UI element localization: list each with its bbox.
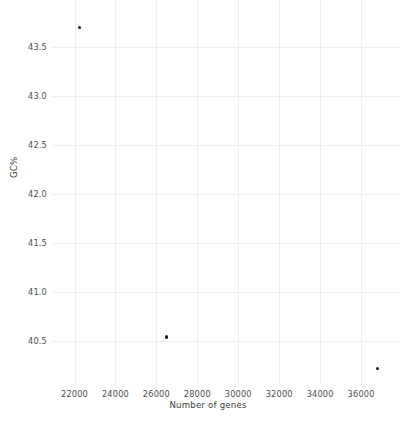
plot-area <box>52 0 400 385</box>
gridline-horizontal <box>52 145 400 146</box>
gridline-horizontal <box>52 47 400 48</box>
y-tick-label: 40.5 <box>0 336 47 346</box>
y-tick-label: 41.5 <box>0 238 47 248</box>
y-tick-label: 43.5 <box>0 42 47 52</box>
scatter-plot-figure: 40.541.041.542.042.543.043.5 22000240002… <box>0 0 416 434</box>
gridline-horizontal <box>52 292 400 293</box>
gridline-horizontal <box>52 194 400 195</box>
gridline-vertical <box>361 0 362 385</box>
gridline-vertical <box>279 0 280 385</box>
y-tick-label: 42.5 <box>0 140 47 150</box>
gridline-horizontal <box>52 341 400 342</box>
gridline-vertical <box>320 0 321 385</box>
gridline-vertical <box>197 0 198 385</box>
gridline-horizontal <box>52 96 400 97</box>
data-point <box>376 367 379 370</box>
gridline-vertical <box>115 0 116 385</box>
y-axis-title: GC% <box>9 157 19 178</box>
gridline-vertical <box>238 0 239 385</box>
y-tick-label: 41.0 <box>0 287 47 297</box>
gridline-vertical <box>156 0 157 385</box>
x-tick-label: 36000 <box>331 389 391 399</box>
gridline-horizontal <box>52 243 400 244</box>
data-point <box>165 335 168 338</box>
y-tick-label: 42.0 <box>0 189 47 199</box>
y-tick-label: 43.0 <box>0 91 47 101</box>
x-axis-title: Number of genes <box>0 400 416 410</box>
data-point <box>78 26 81 29</box>
gridline-vertical <box>75 0 76 385</box>
